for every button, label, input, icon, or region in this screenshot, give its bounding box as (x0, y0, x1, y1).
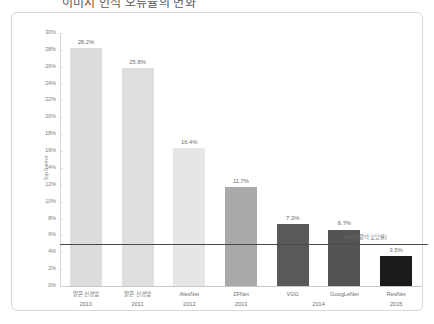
chart-frame: Top 5 error 0%2%4%6%8%10%12%14%16%18%20%… (11, 12, 423, 311)
y-axis-tick-label: 10% (12, 199, 56, 204)
x-axis-label: AlexNet (163, 292, 215, 298)
x-axis-year-label: 2015 (344, 301, 434, 307)
y-axis-tick-label: 18% (12, 131, 56, 136)
plot-area: 28.2%25.8%16.4%11.7%7.3%6.7%3.5% (60, 33, 422, 286)
bar-value-label: 28.2% (56, 39, 116, 45)
x-axis-label-name: ZFNet (215, 292, 267, 298)
reference-line-label: 5%(사람의 오답률) (344, 233, 387, 241)
x-axis-label-name: AlexNet (163, 292, 215, 298)
y-axis-tick-label: 16% (12, 148, 56, 153)
y-axis-tick-mark (60, 286, 63, 287)
x-axis-label: ResNet (370, 292, 422, 298)
x-axis-line (60, 286, 422, 287)
bar-value-label: 11.7% (211, 178, 271, 184)
y-axis-tick-label: 26% (12, 64, 56, 69)
bar (122, 68, 154, 286)
x-axis-label: ZFNet (215, 292, 267, 298)
bar-value-label: 16.4% (159, 139, 219, 145)
y-axis-tick-label: 12% (12, 182, 56, 187)
bar (173, 148, 205, 286)
x-axis-label-name: GoogLeNet (319, 292, 371, 298)
y-axis-tick-label: 30% (12, 30, 56, 35)
y-axis-tick-label: 14% (12, 165, 56, 170)
x-axis-label: 얕은 신경망 (60, 292, 112, 298)
chart-title-strip: 이미지 인식 오류율의 변화 (0, 0, 434, 12)
x-axis-label-name: ResNet (370, 292, 422, 298)
y-axis-tick-label: 28% (12, 47, 56, 52)
reference-line (60, 244, 428, 245)
x-axis-label: VGG (267, 292, 319, 298)
y-axis-tick-label: 20% (12, 115, 56, 120)
y-axis-tick-label: 8% (12, 216, 56, 221)
bar (225, 187, 257, 286)
bar-value-label: 3.5% (366, 247, 426, 253)
y-axis-tick-label: 22% (12, 98, 56, 103)
y-axis-tick-label: 2% (12, 266, 56, 271)
x-axis-label-name: 얕은 신경망 (60, 292, 112, 298)
y-axis-tick-label: 0% (12, 283, 56, 288)
y-axis-tick-label: 6% (12, 233, 56, 238)
bar (380, 256, 412, 286)
y-axis-tick-label: 4% (12, 250, 56, 255)
bar-value-label: 6.7% (314, 220, 374, 226)
bar-value-label: 25.8% (108, 59, 168, 65)
y-axis-tick-label: 24% (12, 81, 56, 86)
page-title: 이미지 인식 오류율의 변화 (62, 0, 196, 10)
x-axis-label-name: VGG (267, 292, 319, 298)
x-axis-label: 얕은 신경망 (112, 292, 164, 298)
bar (277, 224, 309, 286)
x-axis-label-name: 얕은 신경망 (112, 292, 164, 298)
bar (70, 48, 102, 286)
x-axis-label: GoogLeNet (319, 292, 371, 298)
